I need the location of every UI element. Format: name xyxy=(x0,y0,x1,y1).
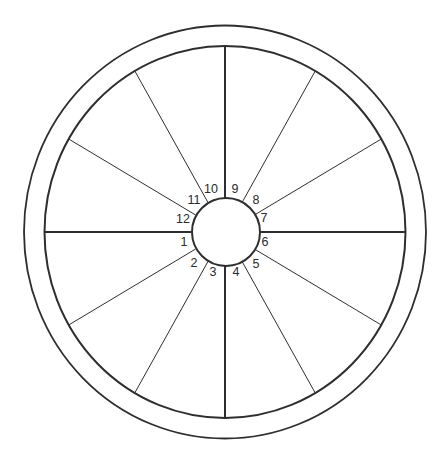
house-label-10: 10 xyxy=(204,182,218,196)
house-label-4: 4 xyxy=(233,265,240,279)
house-label-11: 11 xyxy=(188,193,201,207)
center-hub xyxy=(192,198,260,266)
house-label-1: 1 xyxy=(181,235,188,249)
cusp-line xyxy=(242,261,315,393)
cusp-line xyxy=(254,139,381,215)
cusp-line xyxy=(254,249,381,325)
house-label-3: 3 xyxy=(210,265,217,279)
cusp-line xyxy=(69,139,196,215)
chart-wheel: 123456789101112 xyxy=(0,0,446,459)
house-label-9: 9 xyxy=(232,182,239,196)
house-label-5: 5 xyxy=(253,257,260,271)
house-label-8: 8 xyxy=(253,193,260,207)
cusp-line xyxy=(135,71,208,203)
house-label-12: 12 xyxy=(176,212,190,226)
house-label-7: 7 xyxy=(261,211,268,225)
house-label-6: 6 xyxy=(262,235,269,249)
cusp-line xyxy=(69,249,196,325)
house-label-2: 2 xyxy=(191,256,198,270)
cusp-line xyxy=(135,261,208,393)
cusp-line xyxy=(242,71,315,203)
